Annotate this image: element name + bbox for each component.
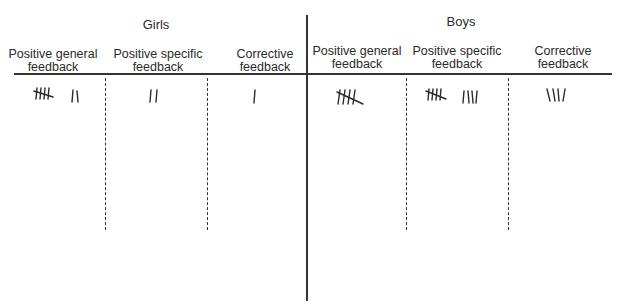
tally-girls-positive-specific xyxy=(148,88,162,106)
header-line2: feedback xyxy=(402,58,512,71)
header-line2: feedback xyxy=(508,58,617,71)
boys-header-positive-specific: Positive specific feedback xyxy=(402,45,512,71)
boys-header-positive-general: Positive general feedback xyxy=(302,45,412,71)
tally-boys-positive-specific xyxy=(426,87,486,107)
tally-girls-corrective xyxy=(250,88,260,106)
tally-boys-corrective xyxy=(545,86,569,106)
girls-divider-2 xyxy=(207,78,208,230)
tally-girls-positive-general xyxy=(35,86,85,106)
group-divider xyxy=(306,15,308,301)
group-title-girls: Girls xyxy=(56,17,256,32)
girls-header-positive-specific: Positive specific feedback xyxy=(103,48,213,74)
boys-header-corrective: Corrective feedback xyxy=(508,45,617,71)
group-title-boys: Boys xyxy=(361,14,561,29)
girls-divider-1 xyxy=(105,78,106,230)
tally-boys-positive-general xyxy=(336,88,366,108)
header-line2: feedback xyxy=(302,58,412,71)
boys-divider-1 xyxy=(406,78,407,230)
girls-header-positive-general: Positive general feedback xyxy=(0,48,108,74)
header-rule xyxy=(14,73,612,75)
boys-divider-2 xyxy=(508,78,509,230)
